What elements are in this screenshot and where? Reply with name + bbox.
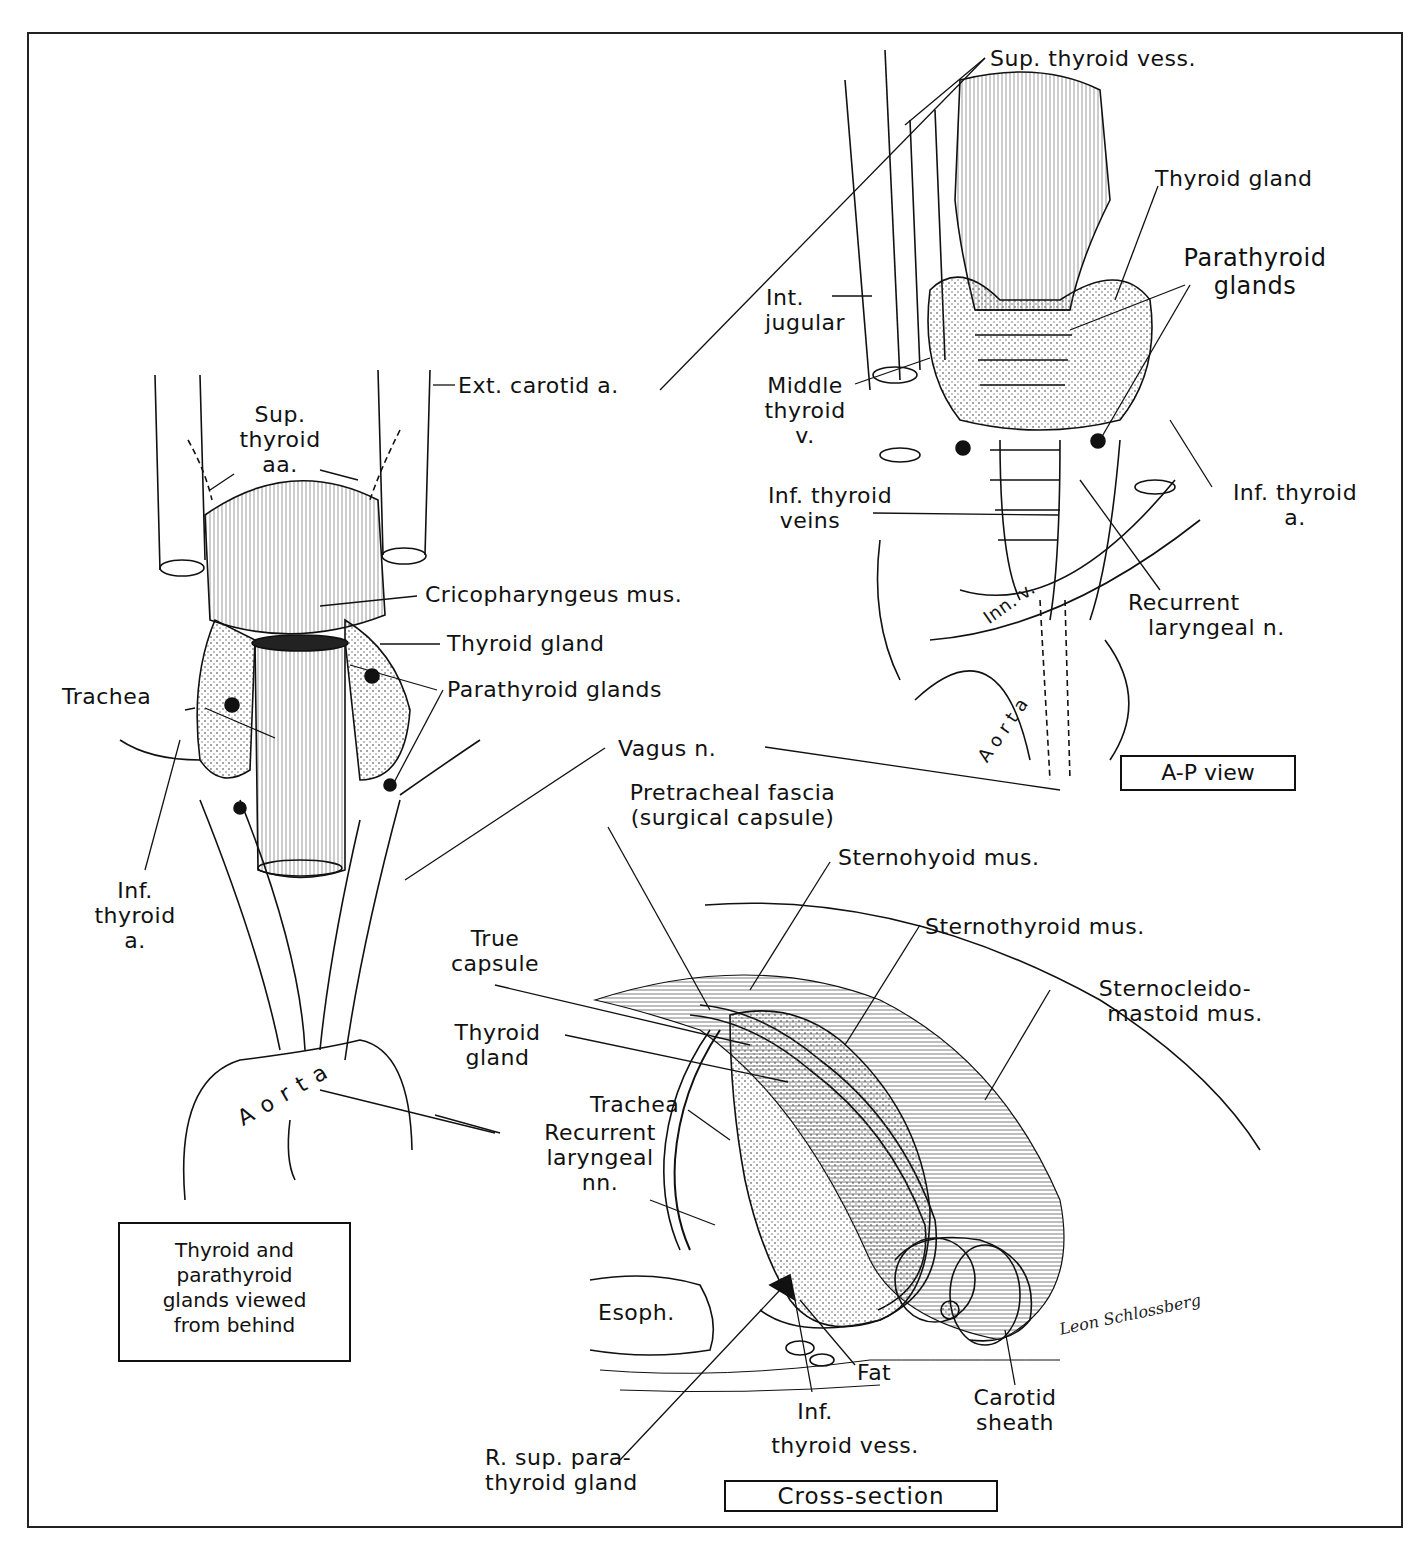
label-middle-thyroid-v: Middle thyroid v. <box>745 373 865 448</box>
label-true-capsule: True capsule <box>425 926 565 976</box>
label-int-jugular: Int. jugular <box>745 285 865 335</box>
label-thyroid-gland-cross: Thyroid gland <box>430 1020 565 1070</box>
ap-view-drawing <box>845 50 1200 780</box>
caption-box-ap-view: A-P view <box>1120 755 1296 791</box>
label-sternocleidomastoid: Sternocleido- mastoid mus. <box>1050 976 1300 1026</box>
label-inf-thyroid-veins: Inf. thyroid veins <box>745 483 915 533</box>
label-r-sup-parathyroid: R. sup. para- thyroid gland <box>485 1445 638 1495</box>
label-recurrent-laryngeal-nn: Recurrent laryngeal nn. <box>505 1120 695 1195</box>
label-trachea-posterior: Trachea <box>62 684 151 709</box>
label-esophagus: Esoph. <box>598 1300 675 1325</box>
label-recurrent-laryngeal-n: Recurrent laryngeal n. <box>1128 590 1285 640</box>
label-parathyroid-glands-posterior: Parathyroid glands <box>447 677 662 702</box>
label-sternohyoid: Sternohyoid mus. <box>838 845 1040 870</box>
label-inf-thyroid-vess: Inf. thyroid vess. <box>740 1395 950 1463</box>
label-trachea-cross: Trachea <box>590 1092 679 1117</box>
label-ext-carotid: Ext. carotid a. <box>458 373 619 398</box>
label-fat: Fat <box>857 1360 891 1385</box>
label-vagus-n: Vagus n. <box>618 736 716 761</box>
label-sternothyroid: Sternothyroid mus. <box>925 914 1145 939</box>
label-carotid-sheath: Carotid sheath <box>960 1385 1070 1435</box>
caption-box-cross-section: Cross-section <box>724 1480 998 1512</box>
label-thyroid-gland-posterior: Thyroid gland <box>447 631 604 656</box>
label-sup-thyroid-vess: Sup. thyroid vess. <box>990 46 1196 71</box>
label-parathyroid-glands-ap: Parathyroid glands <box>1160 244 1350 300</box>
label-pretracheal-fascia: Pretracheal fascia (surgical capsule) <box>570 780 895 830</box>
label-sup-thyroid-aa: Sup. thyroid aa. <box>230 402 330 477</box>
label-inf-thyroid-a-posterior: Inf. thyroid a. <box>70 878 200 953</box>
label-inf-thyroid-a-ap: Inf. thyroid a. <box>1215 480 1375 530</box>
label-thyroid-gland-ap: Thyroid gland <box>1155 166 1312 191</box>
label-cricopharyngeus: Cricopharyngeus mus. <box>425 582 682 607</box>
caption-box-posterior: Thyroid and parathyroid glands viewed fr… <box>118 1222 351 1362</box>
